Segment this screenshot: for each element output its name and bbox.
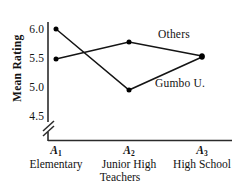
x-tick-code-sub-a2: 2 bbox=[131, 149, 135, 158]
y-tick-label-5-0: 5.0 bbox=[18, 82, 44, 94]
x-tick-name-a3: High School bbox=[159, 159, 240, 171]
axis-break-mark-upper bbox=[43, 121, 54, 131]
x-tick-code-sub-a3: 3 bbox=[204, 149, 208, 158]
x-tick-code-letter-a2: A bbox=[123, 144, 131, 156]
x-tick-code-letter-a3: A bbox=[196, 144, 204, 156]
data-point-others-a1 bbox=[54, 57, 59, 62]
data-point-others-a2 bbox=[127, 40, 132, 45]
series-label-others: Others bbox=[158, 29, 190, 41]
y-tick-label-4-5: 4.5 bbox=[18, 111, 44, 123]
y-tick-label-5-5: 5.5 bbox=[18, 53, 44, 65]
series-line-others bbox=[56, 42, 202, 59]
x-tick-code-sub-a1: 1 bbox=[58, 149, 62, 158]
data-point-gumbo-a2 bbox=[127, 88, 132, 93]
data-point-gumbo-a3 bbox=[199, 54, 204, 59]
x-tick-group-a3: A3 High School bbox=[159, 145, 240, 170]
x-tick-code-letter-a1: A bbox=[50, 144, 58, 156]
data-point-gumbo-a1 bbox=[54, 27, 59, 32]
y-tick-label-6-0: 6.0 bbox=[18, 24, 44, 36]
x-axis-title: Teachers bbox=[0, 172, 240, 184]
x-tick-code-a3: A3 bbox=[159, 145, 240, 157]
series-label-gumbo: Gumbo U. bbox=[155, 78, 205, 90]
chart-figure: Mean Rating 6.0 5.5 5.0 4.5 Others Gumbo… bbox=[0, 0, 240, 188]
